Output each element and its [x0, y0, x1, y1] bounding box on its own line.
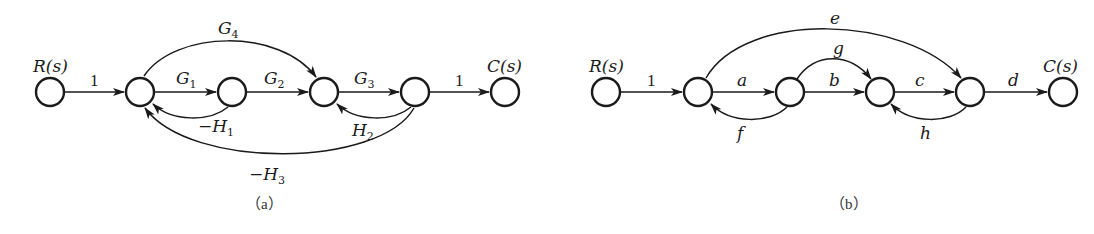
label-a-h2: H2: [351, 120, 374, 143]
label-b-e: e: [830, 8, 840, 28]
node-a-input: [36, 78, 64, 106]
node-b-4: [956, 78, 984, 106]
signal-flow-graphs: R(s) C(s) 1 1 G1 G2 G3 G4 −H1 H2 −H3 （a）: [0, 0, 1094, 234]
label-a-h3: −H3: [249, 164, 285, 187]
label-a-g4: G4: [218, 18, 239, 41]
node-a-3: [310, 78, 338, 106]
node-b-2: [776, 78, 804, 106]
node-a-4: [401, 78, 429, 106]
label-b-d: d: [1008, 70, 1019, 90]
edge-a-h2: [337, 104, 411, 118]
edge-a-g4: [144, 41, 316, 77]
node-b-output: [1049, 78, 1077, 106]
caption-a: （a）: [246, 196, 283, 212]
label-b-h: h: [920, 123, 931, 143]
label-a-out-gain: 1: [455, 71, 464, 90]
label-a-g3: G3: [354, 68, 375, 91]
label-b-in-gain: 1: [647, 71, 656, 90]
edge-b-f: [711, 104, 787, 119]
node-a-output: [491, 78, 519, 106]
label-b-b: b: [829, 70, 840, 90]
node-a-1: [126, 78, 154, 106]
node-b-3: [866, 78, 894, 106]
label-a-h1: −H1: [198, 116, 234, 139]
caption-b: （b）: [830, 196, 868, 212]
node-b-1: [684, 78, 712, 106]
edge-b-h: [891, 104, 966, 119]
diagram-a: R(s) C(s) 1 1 G1 G2 G3 G4 −H1 H2 −H3 （a）: [32, 18, 522, 212]
label-a-output: C(s): [487, 56, 522, 76]
label-b-f: f: [735, 123, 746, 143]
node-a-2: [218, 78, 246, 106]
label-a-g1: G1: [176, 68, 197, 91]
label-a-input: R(s): [32, 56, 68, 76]
label-a-in-gain: 1: [90, 71, 99, 90]
label-b-a: a: [737, 70, 747, 90]
label-b-output: C(s): [1043, 56, 1078, 76]
label-b-input: R(s): [588, 56, 624, 76]
diagram-b: R(s) C(s) 1 a b c d e g f h （b）: [588, 8, 1078, 212]
node-b-input: [592, 78, 620, 106]
label-a-g2: G2: [264, 68, 285, 91]
label-b-c: c: [915, 70, 925, 90]
label-b-g: g: [833, 38, 844, 58]
